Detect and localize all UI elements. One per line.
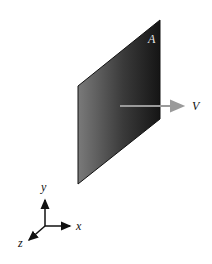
diagram-canvas: A V y x z [0, 0, 212, 264]
plate-area: A [78, 20, 160, 184]
velocity-label: V [192, 99, 201, 113]
y-axis-label: y [40, 180, 47, 194]
z-axis-label: z [17, 236, 23, 250]
coordinate-axes: y x z [17, 180, 82, 250]
x-axis-label: x [75, 219, 82, 233]
plate-label: A [147, 32, 156, 46]
z-axis-arrow-icon [29, 226, 45, 240]
